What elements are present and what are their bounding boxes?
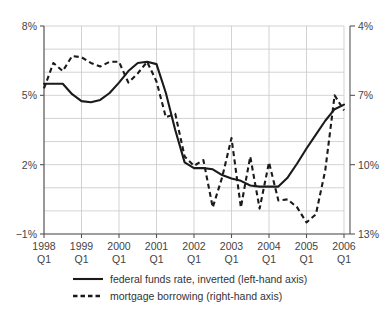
right-axis-tick-label: 10% [358,159,379,171]
left-axis-tick-label: −1% [16,228,37,240]
left-axis-tick-label: 2% [22,159,37,171]
legend-label-mortgage-borrowing: mortgage borrowing (right-hand axis) [110,290,282,302]
x-axis-quarter-label: Q1 [337,253,351,265]
chart-legend: federal funds rate, inverted (left-hand … [73,273,307,302]
x-axis-quarter-label: Q1 [112,253,126,265]
left-axis-tick-label: 5% [22,89,37,101]
right-axis-tick-label: 13% [358,228,379,240]
x-axis-quarter-label: Q1 [262,253,276,265]
x-axis-year-label: 2003 [220,240,244,252]
right-axis-tick-labels: 13%10%7%4% [358,20,379,240]
x-axis-quarter-label: Q1 [149,253,163,265]
dual-axis-line-chart: −1%2%5%8% 13%10%7%4% 1998Q11999Q12000Q12… [0,0,387,318]
axis-lines [44,26,350,234]
left-axis-tick-labels: −1%2%5%8% [16,20,37,240]
x-axis-quarter-label: Q1 [37,253,51,265]
left-axis-tick-label: 8% [22,20,37,32]
x-axis-quarter-label: Q1 [187,253,201,265]
x-axis-year-label: 2005 [295,240,319,252]
x-axis-quarter-label: Q1 [224,253,238,265]
x-axis-year-label: 2000 [107,240,131,252]
x-axis-year-label: 1998 [32,240,56,252]
x-axis-quarter-label: Q1 [74,253,88,265]
x-axis-year-label: 2002 [182,240,206,252]
x-axis-year-label: 2006 [332,240,356,252]
x-axis-tick-labels: 1998Q11999Q12000Q12001Q12002Q12003Q12004… [32,240,356,265]
x-axis-quarter-label: Q1 [299,253,313,265]
right-axis-tick-label: 4% [358,20,373,32]
x-axis-year-label: 2004 [257,240,281,252]
legend-label-federal-funds-rate: federal funds rate, inverted (left-hand … [110,273,307,285]
x-axis-year-label: 1999 [70,240,94,252]
tick-marks [40,26,355,238]
right-axis-tick-label: 7% [358,89,373,101]
x-axis-year-label: 2001 [145,240,169,252]
gridlines [44,26,344,234]
chart-figure: −1%2%5%8% 13%10%7%4% 1998Q11999Q12000Q12… [0,0,387,318]
